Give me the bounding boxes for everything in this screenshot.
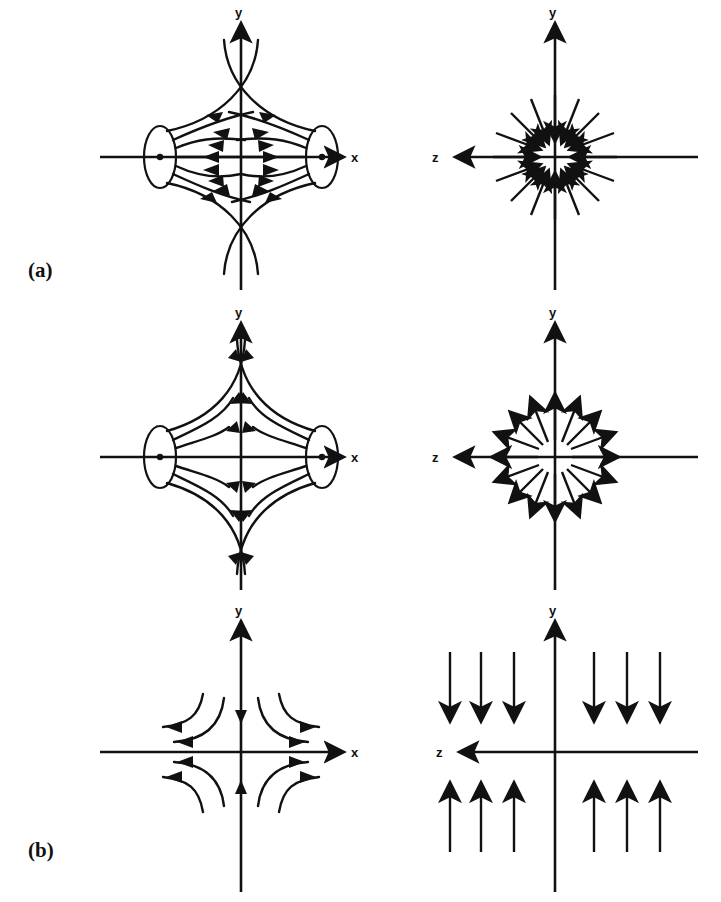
panel-a: (a) x y	[0, 0, 721, 300]
panel-label-a: (a)	[28, 258, 53, 283]
axis-group	[100, 622, 343, 892]
curves-upper-right	[258, 694, 319, 748]
panel-b-left-diagram: x y	[95, 300, 385, 600]
panel-c: (c) x y	[0, 600, 721, 900]
axis-y-label: y	[235, 305, 243, 320]
axis-y-label: y	[549, 5, 557, 20]
axis-z-label: z	[432, 150, 439, 165]
axis-y-label: y	[549, 603, 557, 618]
panel-a-right-diagram: z y	[408, 0, 708, 300]
axis-x-label: x	[351, 450, 359, 465]
curves-upper-left	[163, 694, 224, 748]
panel-c-right-diagram: z y	[408, 600, 708, 900]
curves-lower-right	[258, 756, 319, 812]
axis-z-label: z	[432, 450, 439, 465]
panel-b: (b) x y	[0, 300, 721, 600]
axis-y-label: y	[235, 5, 243, 20]
axis-group	[460, 622, 698, 892]
axis-x-label: x	[351, 150, 359, 165]
panel-c-left-diagram: x y	[95, 600, 385, 900]
axis-y-label: y	[549, 305, 557, 320]
field-line-figure: (a) x y	[0, 0, 721, 902]
panel-b-right-diagram: z y	[408, 300, 708, 600]
axis-y-label: y	[235, 603, 243, 618]
curves-lower-left	[163, 756, 224, 812]
axis-x-label: x	[351, 745, 359, 760]
axis-z-label: z	[436, 745, 443, 760]
panel-a-left-diagram: x y	[95, 0, 385, 300]
